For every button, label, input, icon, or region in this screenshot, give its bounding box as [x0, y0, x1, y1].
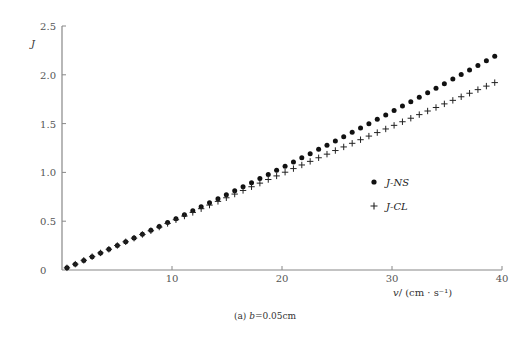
x-tick-label: 40 — [496, 273, 509, 284]
data-point-plus — [458, 94, 464, 100]
data-point-plus — [265, 176, 271, 182]
x-axis-label: v/ (cm · s⁻¹) — [393, 287, 452, 298]
data-point-dot — [308, 151, 313, 156]
data-point-plus — [483, 83, 489, 89]
y-tick-label: 2.5 — [40, 21, 56, 32]
data-point-plus — [248, 184, 254, 190]
data-point-plus — [324, 151, 330, 157]
data-point-dot — [291, 160, 296, 165]
x-ticks: 10203040 — [166, 266, 509, 284]
data-point-plus — [299, 162, 305, 168]
data-point-plus — [341, 144, 347, 150]
data-point-dot — [383, 112, 388, 117]
data-point-plus — [349, 140, 355, 146]
data-point-dot — [492, 54, 497, 59]
data-point-plus — [240, 187, 246, 193]
data-point-plus — [399, 119, 405, 125]
data-point-dot — [333, 138, 338, 143]
data-point-plus — [106, 246, 112, 252]
data-point-plus — [114, 242, 120, 248]
caption-value: =0.05cm — [255, 311, 296, 321]
data-point-dot — [350, 130, 355, 135]
data-point-plus — [315, 155, 321, 161]
data-point-dot — [324, 143, 329, 148]
data-point-plus — [72, 261, 78, 267]
data-point-dot — [366, 121, 371, 126]
data-point-plus — [173, 217, 179, 223]
data-point-dot — [299, 155, 304, 160]
data-point-plus — [424, 108, 430, 114]
dot-marker-icon — [371, 179, 376, 184]
data-point-dot — [341, 134, 346, 139]
origin-label: 0 — [40, 265, 46, 276]
data-point-plus — [475, 86, 481, 92]
data-point-plus — [441, 101, 447, 107]
data-point-plus — [357, 137, 363, 143]
plus-marker-icon — [371, 203, 378, 210]
legend: J-NS J-CL — [371, 177, 410, 212]
data-point-plus — [332, 147, 338, 153]
y-tick-label: 1.5 — [40, 119, 56, 130]
data-point-plus — [164, 220, 170, 226]
x-axis-unit: / (cm · s⁻¹) — [399, 287, 452, 298]
data-point-plus — [416, 111, 422, 117]
data-point-plus — [290, 165, 296, 171]
data-point-plus — [374, 129, 380, 135]
data-point-plus — [81, 257, 87, 263]
figure-caption: (a) b=0.05cm — [0, 311, 530, 321]
data-point-dot — [358, 125, 363, 130]
legend-label-j-ns: J-NS — [384, 177, 409, 188]
y-axis-label: J — [29, 38, 36, 49]
data-point-dot — [417, 95, 422, 100]
data-point-plus — [257, 180, 263, 186]
series-j-cl — [64, 79, 498, 271]
data-point-dot — [450, 77, 455, 82]
data-point-plus — [97, 250, 103, 256]
x-tick-label: 10 — [166, 273, 179, 284]
data-point-plus — [408, 115, 414, 121]
x-tick-label: 30 — [386, 273, 399, 284]
data-point-dot — [375, 117, 380, 122]
data-point-plus — [148, 228, 154, 234]
data-point-plus — [156, 224, 162, 230]
data-point-plus — [89, 253, 95, 259]
data-point-plus — [466, 90, 472, 96]
data-point-dot — [400, 104, 405, 109]
data-point-dot — [266, 172, 271, 177]
y-tick-label: 0.5 — [40, 216, 56, 227]
data-point-dot — [434, 86, 439, 91]
x-tick-label: 20 — [276, 273, 289, 284]
data-point-dot — [467, 68, 472, 73]
data-point-plus — [122, 239, 128, 245]
data-point-dot — [274, 168, 279, 173]
data-point-dot — [408, 99, 413, 104]
data-point-plus — [450, 97, 456, 103]
data-point-dot — [392, 108, 397, 113]
y-tick-label: 2.0 — [40, 70, 56, 81]
legend-item-j-cl: J-CL — [371, 201, 409, 212]
data-point-plus — [492, 79, 498, 85]
data-point-dot — [442, 81, 447, 86]
data-point-dot — [475, 63, 480, 68]
y-tick-label: 1.0 — [40, 167, 56, 178]
data-point-dot — [316, 147, 321, 152]
data-point-plus — [131, 235, 137, 241]
data-point-plus — [307, 158, 313, 164]
data-point-plus — [139, 231, 145, 237]
data-point-dot — [484, 58, 489, 63]
data-point-dot — [283, 164, 288, 169]
legend-item-j-ns: J-NS — [371, 177, 409, 188]
series-j-ns — [64, 54, 497, 271]
data-point-plus — [273, 173, 279, 179]
data-point-plus — [391, 122, 397, 128]
data-point-dot — [425, 90, 430, 95]
data-point-plus — [282, 169, 288, 175]
data-point-dot — [459, 72, 464, 77]
axes: 0.51.01.52.02.5 10203040 — [40, 21, 508, 284]
caption-prefix: (a) — [234, 311, 246, 321]
data-point-plus — [383, 126, 389, 132]
data-point-plus — [366, 133, 372, 139]
chart-canvas: 0.51.01.52.02.5 10203040 J 0 v/ (cm · s⁻… — [0, 0, 530, 338]
data-point-plus — [433, 104, 439, 110]
legend-label-j-cl: J-CL — [384, 201, 408, 212]
